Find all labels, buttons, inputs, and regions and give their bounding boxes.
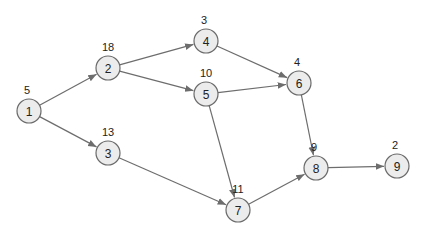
network-diagram: 1521831343510647118992 xyxy=(0,0,423,233)
node-2: 218 xyxy=(96,41,120,80)
node-weight-label: 10 xyxy=(200,67,212,79)
node-label: 9 xyxy=(394,160,401,174)
node-6: 64 xyxy=(287,56,311,95)
node-weight-label: 13 xyxy=(102,126,114,138)
edge-2-to-4 xyxy=(120,44,194,64)
node-3: 313 xyxy=(96,126,120,165)
node-label: 6 xyxy=(296,77,303,91)
node-9: 92 xyxy=(385,139,409,178)
node-weight-label: 5 xyxy=(24,84,30,96)
edge-5-to-6 xyxy=(218,85,286,93)
node-weight-label: 4 xyxy=(294,56,300,68)
node-weight-label: 9 xyxy=(311,141,317,153)
node-label: 2 xyxy=(105,62,112,76)
edge-2-to-5 xyxy=(120,71,194,91)
edge-8-to-9 xyxy=(328,166,384,167)
edge-7-to-8 xyxy=(249,174,305,204)
node-label: 8 xyxy=(313,162,320,176)
edge-1-to-3 xyxy=(40,117,97,147)
node-label: 5 xyxy=(203,88,210,102)
node-label: 7 xyxy=(235,204,242,218)
node-weight-label: 2 xyxy=(392,139,398,151)
node-label: 3 xyxy=(105,147,112,161)
node-label: 1 xyxy=(26,105,33,119)
edge-1-to-2 xyxy=(40,74,97,105)
node-1: 15 xyxy=(17,84,41,123)
edge-5-to-7 xyxy=(209,106,234,198)
node-8: 89 xyxy=(304,141,328,180)
node-weight-label: 3 xyxy=(201,14,207,26)
node-7: 711 xyxy=(226,183,250,222)
edge-4-to-6 xyxy=(217,46,287,78)
node-5: 510 xyxy=(194,67,218,106)
node-weight-label: 18 xyxy=(102,41,114,53)
edge-3-to-7 xyxy=(119,158,226,205)
node-label: 4 xyxy=(203,35,210,49)
node-weight-label: 11 xyxy=(232,183,243,195)
node-4: 43 xyxy=(194,14,218,53)
